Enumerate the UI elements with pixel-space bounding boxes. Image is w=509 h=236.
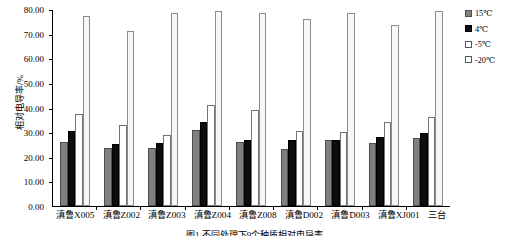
- bar: [112, 144, 120, 206]
- bar: [119, 125, 127, 206]
- bar: [288, 140, 296, 206]
- bar: [325, 140, 333, 206]
- bar-groups: [53, 10, 450, 206]
- bar-group: [413, 10, 443, 206]
- y-tick-label: 0.00: [28, 203, 44, 212]
- legend-label: -5℃: [475, 39, 491, 49]
- y-tick-mark: [49, 158, 53, 159]
- legend-label: 4℃: [475, 24, 488, 34]
- y-tick-mark: [49, 182, 53, 183]
- bar: [384, 122, 392, 206]
- legend-item[interactable]: -5℃: [465, 39, 509, 49]
- legend-swatch-icon: [465, 41, 472, 48]
- bar: [259, 13, 267, 206]
- bar: [207, 105, 215, 206]
- bar: [251, 110, 259, 206]
- bar: [281, 149, 289, 206]
- bar: [420, 133, 428, 206]
- y-tick-label: 80.00: [24, 6, 44, 15]
- bar: [68, 131, 76, 206]
- x-tick-label: 滇鲁XJ001: [378, 209, 420, 221]
- x-tick-label: 三台: [428, 209, 446, 221]
- plot-area: [52, 10, 450, 207]
- x-tick-label: 滇鲁Z003: [148, 209, 185, 221]
- y-tick-mark: [49, 10, 53, 11]
- bar: [435, 11, 443, 206]
- y-tick-label: 20.00: [24, 153, 44, 162]
- x-tick-label: 滇鲁Z004: [194, 209, 231, 221]
- bar: [428, 117, 436, 206]
- bar: [391, 25, 399, 206]
- bar: [215, 11, 223, 206]
- bar: [171, 13, 179, 206]
- legend-item[interactable]: 15℃: [465, 8, 509, 18]
- bar: [60, 142, 68, 206]
- y-tick-label: 30.00: [24, 129, 44, 138]
- bar: [236, 142, 244, 206]
- x-tick-label: 滇鲁Z008: [239, 209, 276, 221]
- y-tick-mark: [49, 133, 53, 134]
- bar: [156, 143, 164, 206]
- legend-item[interactable]: -20℃: [465, 55, 509, 65]
- x-tick-label: 滇鲁D003: [331, 209, 369, 221]
- figure-caption: 图1 不同处理下9个种质相对电导率: [0, 228, 509, 236]
- legend-label: -20℃: [475, 55, 495, 65]
- bar: [296, 131, 304, 206]
- bar-group: [369, 10, 399, 206]
- x-axis-tick-labels: 滇鲁X005滇鲁Z002滇鲁Z003滇鲁Z004滇鲁Z008滇鲁D002滇鲁D0…: [52, 209, 450, 225]
- bar: [83, 16, 91, 206]
- bar: [127, 31, 135, 206]
- bar: [163, 135, 171, 206]
- legend: 15℃4℃-5℃-20℃: [465, 8, 509, 65]
- bar: [369, 143, 377, 206]
- bar: [340, 132, 348, 206]
- bar: [303, 19, 311, 206]
- y-tick-label: 50.00: [24, 79, 44, 88]
- bar: [75, 114, 83, 206]
- y-tick-mark: [49, 35, 53, 36]
- x-tick-label: 滇鲁D002: [285, 209, 323, 221]
- bar: [104, 148, 112, 206]
- bar: [332, 140, 340, 206]
- x-tick-label: 滇鲁X005: [56, 209, 94, 221]
- y-tick-label: 60.00: [24, 55, 44, 64]
- y-tick-mark: [49, 59, 53, 60]
- bar: [148, 148, 156, 206]
- bar: [244, 140, 252, 206]
- bar: [413, 138, 421, 206]
- bar-group: [60, 10, 90, 206]
- legend-swatch-icon: [465, 10, 472, 17]
- y-axis-tick-labels: 0.0010.0020.0030.0040.0050.0060.0070.008…: [0, 10, 50, 207]
- legend-swatch-icon: [465, 25, 472, 32]
- bar-group: [325, 10, 355, 206]
- bar-group: [104, 10, 134, 206]
- bar-group: [281, 10, 311, 206]
- bar-group: [236, 10, 266, 206]
- y-tick-mark: [49, 109, 53, 110]
- bar: [376, 137, 384, 206]
- bar: [192, 130, 200, 206]
- y-tick-mark: [49, 84, 53, 85]
- y-tick-label: 40.00: [24, 104, 44, 113]
- x-tick-label: 滇鲁Z002: [103, 209, 140, 221]
- y-tick-label: 70.00: [24, 30, 44, 39]
- bar-group: [192, 10, 222, 206]
- legend-label: 15℃: [475, 8, 492, 18]
- legend-item[interactable]: 4℃: [465, 24, 509, 34]
- bar-chart: 相对电导率/% 0.0010.0020.0030.0040.0050.0060.…: [0, 0, 509, 236]
- bar: [347, 13, 355, 206]
- legend-swatch-icon: [465, 56, 472, 63]
- y-tick-label: 10.00: [24, 178, 44, 187]
- bar-group: [148, 10, 178, 206]
- bar: [200, 122, 208, 206]
